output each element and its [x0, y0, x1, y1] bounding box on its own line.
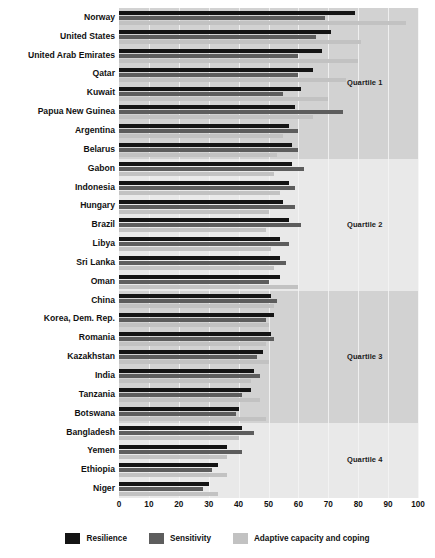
- bar-group: [119, 479, 418, 498]
- category-label: India: [0, 370, 115, 380]
- bar-ada: [119, 304, 274, 308]
- bar-group: [119, 291, 418, 310]
- bar-sen: [119, 337, 274, 341]
- category-label: Yemen: [0, 445, 115, 455]
- x-tick-label: 80: [354, 500, 363, 509]
- category-label: Kuwait: [0, 87, 115, 97]
- category-label: Sri Lanka: [0, 257, 115, 267]
- category-label: Oman: [0, 276, 115, 286]
- bar-group: [119, 234, 418, 253]
- bar-sen: [119, 468, 212, 472]
- quartile-label: Quartile 3: [347, 352, 383, 361]
- bar-ada: [119, 492, 218, 496]
- bar-ada: [119, 436, 239, 440]
- gridline: [418, 8, 419, 498]
- bar-group: [119, 272, 418, 291]
- x-tick-label: 40: [234, 500, 243, 509]
- x-tick-label: 90: [384, 500, 393, 509]
- bar-ada: [119, 360, 269, 364]
- bar-sen: [119, 374, 260, 378]
- bar-group: [119, 27, 418, 46]
- category-label: Argentina: [0, 125, 115, 135]
- bar-sen: [119, 280, 269, 284]
- bar-sen: [119, 355, 257, 359]
- x-tick-label: 10: [144, 500, 153, 509]
- bar-ada: [119, 153, 277, 157]
- bar-group: [119, 253, 418, 272]
- x-tick-label: 50: [264, 500, 273, 509]
- category-label: Brazil: [0, 219, 115, 229]
- bar-res: [119, 369, 254, 373]
- bar-ada: [119, 342, 266, 346]
- category-label: Ethiopia: [0, 464, 115, 474]
- category-label: Libya: [0, 238, 115, 248]
- bar-res: [119, 49, 322, 53]
- bar-group: [119, 178, 418, 197]
- legend-label: Adaptive capacity and coping: [254, 534, 370, 543]
- bar-sen: [119, 73, 298, 77]
- bar-ada: [119, 210, 269, 214]
- category-label: Hungary: [0, 200, 115, 210]
- bar-res: [119, 463, 218, 467]
- bar-sen: [119, 261, 286, 265]
- x-tick-label: 70: [324, 500, 333, 509]
- legend-label: Resilience: [86, 534, 127, 543]
- bar-ada: [119, 455, 227, 459]
- plot-area: Quartile 1Quartile 2Quartile 3Quartile 4: [119, 8, 418, 498]
- bar-ada: [119, 115, 313, 119]
- bar-ada: [119, 473, 227, 477]
- bar-res: [119, 388, 251, 392]
- bar-ada: [119, 78, 346, 82]
- category-label: Tanzania: [0, 389, 115, 399]
- bar-res: [119, 218, 289, 222]
- bar-ada: [119, 266, 274, 270]
- bar-ada: [119, 40, 361, 44]
- bar-group: [119, 8, 418, 27]
- category-axis-labels: NorwayUnited StatesUnited Arab EmiratesQ…: [0, 8, 115, 498]
- bar-group: [119, 328, 418, 347]
- x-tick-label: 100: [411, 500, 425, 509]
- legend-swatch-icon: [65, 533, 80, 544]
- bar-res: [119, 181, 289, 185]
- category-label: Kazakhstan: [0, 351, 115, 361]
- bar-group: [119, 159, 418, 178]
- bar-sen: [119, 223, 301, 227]
- bar-res: [119, 143, 292, 147]
- bar-group: [119, 196, 418, 215]
- bar-sen: [119, 148, 298, 152]
- category-label: Papua New Guinea: [0, 106, 115, 116]
- quartile-label: Quartile 2: [347, 220, 383, 229]
- legend-item: Sensitivity: [149, 533, 211, 544]
- legend-item: Resilience: [65, 533, 127, 544]
- category-label: Gabon: [0, 163, 115, 173]
- quartile-label: Quartile 4: [347, 455, 383, 464]
- bar-ada: [119, 398, 260, 402]
- bar-res: [119, 200, 283, 204]
- bar-group: [119, 385, 418, 404]
- bar-res: [119, 407, 239, 411]
- bar-ada: [119, 97, 328, 101]
- bar-sen: [119, 205, 295, 209]
- bar-group: [119, 102, 418, 121]
- bar-group: [119, 423, 418, 442]
- category-label: Indonesia: [0, 182, 115, 192]
- bar-sen: [119, 318, 266, 322]
- bar-sen: [119, 167, 304, 171]
- bar-res: [119, 124, 289, 128]
- legend-swatch-icon: [233, 533, 248, 544]
- bar-sen: [119, 129, 298, 133]
- bar-ada: [119, 228, 266, 232]
- bar-group: [119, 46, 418, 65]
- category-label: Korea, Dem. Rep.: [0, 313, 115, 323]
- bar-group: [119, 140, 418, 159]
- bar-sen: [119, 431, 254, 435]
- category-label: Botswana: [0, 408, 115, 418]
- bar-res: [119, 237, 280, 241]
- bar-ada: [119, 417, 266, 421]
- bar-res: [119, 87, 301, 91]
- legend-item: Adaptive capacity and coping: [233, 533, 370, 544]
- bar-sen: [119, 54, 298, 58]
- category-label: Romania: [0, 332, 115, 342]
- bar-sen: [119, 186, 295, 190]
- chart-legend: ResilienceSensitivityAdaptive capacity a…: [0, 529, 435, 547]
